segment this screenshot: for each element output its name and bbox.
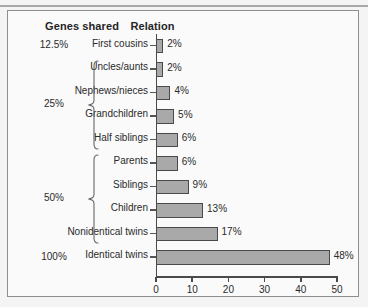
- genes-shared-percent: 25%: [26, 98, 82, 109]
- x-axis-tick-label: 10: [177, 284, 207, 295]
- bar-row: Nonidentical twins17%: [0, 222, 368, 246]
- genes-shared-percent: 12.5%: [26, 39, 82, 50]
- bar-value-label: 17%: [222, 226, 242, 237]
- genes-shared-percent: 100%: [26, 251, 82, 262]
- bar-row: Uncles/aunts2%: [0, 58, 368, 82]
- bar-value-label: 4%: [174, 85, 188, 96]
- group-brace: [88, 154, 99, 244]
- x-axis-tick: [191, 277, 193, 282]
- x-axis-tick: [336, 277, 338, 282]
- bar-value-label: 5%: [178, 109, 192, 120]
- bar: [156, 180, 189, 195]
- bar: [156, 133, 178, 148]
- x-axis-tick-label: 50: [322, 284, 352, 295]
- bar-value-label: 13%: [207, 203, 227, 214]
- bar: [156, 86, 170, 101]
- bar-row-label: Nephews/nieces: [60, 85, 148, 96]
- group-brace: [88, 60, 99, 150]
- bar-row-label: Parents: [60, 155, 148, 166]
- bar: [156, 39, 163, 54]
- bar-value-label: 2%: [167, 38, 181, 49]
- bar-row: Half siblings6%: [0, 128, 368, 152]
- x-axis-tick: [300, 277, 302, 282]
- bar: [156, 109, 174, 124]
- bar-row-label: Uncles/aunts: [60, 61, 148, 72]
- bar: [156, 227, 218, 242]
- bar-chart-plot-area: First cousins2%Uncles/aunts2%Nephews/nie…: [0, 0, 368, 307]
- x-axis-tick: [264, 277, 266, 282]
- bar-value-label: 6%: [182, 132, 196, 143]
- bar: [156, 203, 203, 218]
- bar-row-label: Grandchildren: [60, 108, 148, 119]
- bar-value-label: 9%: [193, 179, 207, 190]
- x-axis-tick: [155, 277, 157, 282]
- bar-row-label: Half siblings: [60, 132, 148, 143]
- genes-shared-percent: 50%: [26, 192, 82, 203]
- bar-row-label: Children: [60, 202, 148, 213]
- x-axis-tick-label: 0: [141, 284, 171, 295]
- bar-row: Parents6%: [0, 152, 368, 176]
- bar-row-label: Siblings: [60, 179, 148, 190]
- bar: [156, 156, 178, 171]
- bar-value-label: 48%: [334, 250, 354, 261]
- bar: [156, 62, 163, 77]
- x-axis-tick-label: 40: [286, 284, 316, 295]
- bar-value-label: 2%: [167, 62, 181, 73]
- x-axis-line: [156, 276, 338, 278]
- bar-value-label: 6%: [182, 156, 196, 167]
- x-axis-tick-label: 30: [250, 284, 280, 295]
- x-axis-tick: [228, 277, 230, 282]
- x-axis-tick-label: 20: [213, 284, 243, 295]
- bar: [156, 250, 330, 265]
